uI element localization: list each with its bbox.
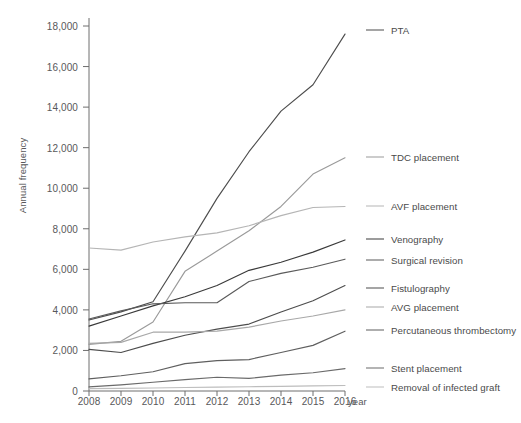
legend-label: Percutaneous thrombectomy xyxy=(391,325,516,336)
legend-color-swatch xyxy=(366,330,384,331)
legend-color-swatch xyxy=(366,368,384,369)
legend-item[interactable]: Percutaneous thrombectomy xyxy=(366,325,516,336)
legend-item[interactable]: Venography xyxy=(366,234,443,245)
legend-item[interactable]: TDC placement xyxy=(366,152,459,163)
chart-container: Annual frequency 02,0004,0006,0008,00010… xyxy=(0,0,521,423)
legend-label: AVG placement xyxy=(391,302,459,313)
legend-item[interactable]: PTA xyxy=(366,25,409,36)
legend-color-swatch xyxy=(366,387,384,388)
legend-label: Surgical revision xyxy=(391,255,463,266)
chart-legend: PTATDC placementAVF placementVenographyS… xyxy=(0,0,521,423)
legend-color-swatch xyxy=(366,206,384,207)
legend-item[interactable]: Stent placement xyxy=(366,363,462,374)
legend-color-swatch xyxy=(366,288,384,289)
legend-item[interactable]: AVG placement xyxy=(366,302,459,313)
legend-item[interactable]: Fistulography xyxy=(366,283,450,294)
legend-label: TDC placement xyxy=(391,152,459,163)
legend-color-swatch xyxy=(366,307,384,308)
legend-label: PTA xyxy=(391,25,409,36)
legend-color-swatch xyxy=(366,239,384,240)
legend-color-swatch xyxy=(366,260,384,261)
legend-color-swatch xyxy=(366,30,384,31)
legend-item[interactable]: AVF placement xyxy=(366,201,457,212)
legend-item[interactable]: Surgical revision xyxy=(366,255,463,266)
legend-label: Stent placement xyxy=(391,363,462,374)
legend-color-swatch xyxy=(366,157,384,158)
legend-label: Venography xyxy=(391,234,443,245)
legend-item[interactable]: Removal of infected graft xyxy=(366,382,500,393)
legend-label: AVF placement xyxy=(391,201,457,212)
legend-label: Fistulography xyxy=(391,283,450,294)
legend-label: Removal of infected graft xyxy=(391,382,500,393)
